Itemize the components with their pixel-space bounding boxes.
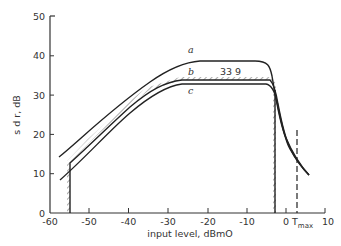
hatched-region	[67, 77, 276, 213]
x-axis-title: input level, dBmO	[147, 228, 232, 239]
curve-c-label: c	[188, 85, 194, 96]
x-tick-minus50: -50	[81, 216, 97, 227]
x-tick-minus20: -20	[200, 216, 216, 227]
y-tick-labels: 0 10 20 30 40 50	[33, 11, 45, 219]
x-tick-minus60: -60	[42, 216, 58, 227]
x-tick-minus30: -30	[160, 216, 176, 227]
x-tick-minus40: -40	[121, 216, 137, 227]
y-tick-50: 50	[33, 11, 45, 22]
y-tick-40: 40	[33, 50, 45, 61]
x-tick-0: 0	[283, 216, 289, 227]
y-tick-10: 10	[33, 168, 45, 179]
curve-a-label: a	[188, 44, 194, 55]
curve-b-label: b	[188, 66, 194, 77]
peak-value-annotation: 33 9	[220, 66, 241, 77]
y-axis-title: s d r, dB	[11, 95, 22, 135]
y-tick-30: 30	[33, 90, 45, 101]
x-tick-10: 10	[322, 216, 334, 227]
x-tick-minus10: -10	[239, 216, 255, 227]
sdr-chart: 0 10 20 30 40 50 -60 -50 -40 -30 -20 -10…	[0, 0, 341, 246]
y-tick-20: 20	[33, 129, 45, 140]
tmax-label: Tmax	[291, 216, 313, 230]
